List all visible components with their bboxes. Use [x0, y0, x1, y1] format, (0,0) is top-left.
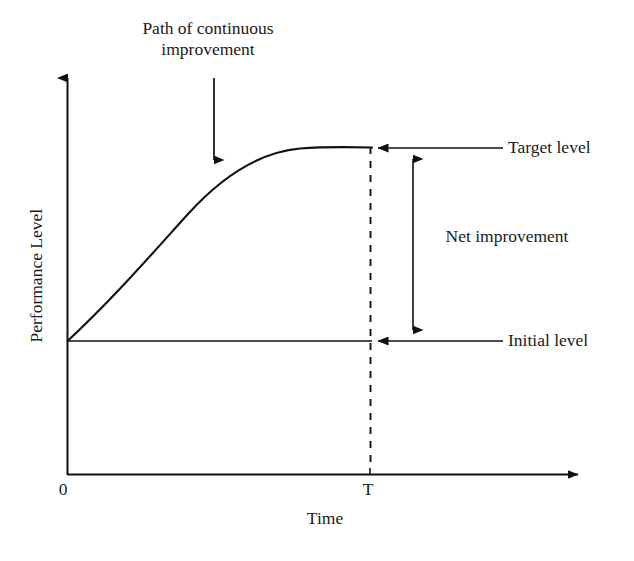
y-axis-title: Performance Level: [26, 196, 47, 356]
label-net-improvement: Net improvement: [432, 226, 582, 247]
chart-canvas: [0, 0, 634, 561]
x-axis-tick-label-T: T: [357, 479, 379, 500]
figure-root: Path of continuous improvement Target le…: [0, 0, 634, 561]
label-initial-level: Initial level: [508, 330, 588, 351]
label-target-level: Target level: [508, 137, 591, 158]
annotation-path-of-continuous-improvement: Path of continuous improvement: [110, 18, 306, 61]
x-axis-title: Time: [265, 508, 385, 529]
x-axis-tick-label-origin: 0: [52, 479, 74, 500]
continuous-improvement-curve: [68, 147, 373, 341]
